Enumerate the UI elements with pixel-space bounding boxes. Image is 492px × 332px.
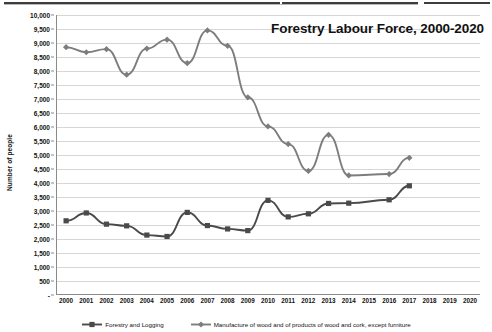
y-tick-label: 10,000 (30, 12, 50, 19)
data-point-square (407, 183, 412, 188)
y-tick-mark (51, 29, 54, 30)
data-point-square (225, 226, 230, 231)
data-point-diamond (325, 132, 331, 138)
cropped-toolbar-strip (0, 0, 492, 7)
x-tick-label: 2005 (160, 297, 174, 304)
y-tick-label: 4,500 (34, 166, 50, 173)
chart-container: Number of people -5001,0001,5002,0002,50… (0, 7, 492, 332)
series-line (66, 30, 409, 175)
data-point-square (185, 210, 190, 215)
y-axis-ticks: -5001,0001,5002,0002,5003,0003,5004,0004… (0, 15, 54, 295)
y-tick-label: 500 (39, 278, 50, 285)
x-tick-label: 2000 (59, 297, 73, 304)
y-tick-label: 1,000 (34, 264, 50, 271)
data-point-square (104, 222, 109, 227)
y-tick-label: 2,000 (34, 236, 50, 243)
data-point-diamond (265, 123, 271, 129)
data-point-diamond (386, 171, 392, 177)
x-axis-ticks: 2000200120022003200420052006200720082009… (56, 297, 480, 311)
data-point-square (265, 198, 270, 203)
data-point-square (84, 210, 89, 215)
chart-title: Forestry Labour Force, 2000-2020 (271, 21, 484, 36)
data-point-diamond (63, 44, 69, 50)
legend-label: Forestry and Logging (105, 321, 163, 328)
legend-square-marker-icon (81, 320, 103, 329)
toolbar-underline (4, 4, 418, 5)
y-tick-mark (51, 225, 54, 226)
plot-area (56, 15, 480, 295)
x-tick-label: 2016 (382, 297, 396, 304)
legend-item[interactable]: Forestry and Logging (81, 320, 163, 329)
x-tick-label: 2003 (120, 297, 134, 304)
data-point-square (164, 234, 169, 239)
data-point-diamond (164, 37, 170, 43)
chart-legend: Forestry and LoggingManufacture of wood … (0, 316, 492, 332)
y-tick-label: 6,500 (34, 110, 50, 117)
data-point-diamond (144, 46, 150, 52)
x-tick-label: 2017 (402, 297, 416, 304)
data-point-square (346, 201, 351, 206)
series-plot (56, 15, 480, 295)
y-tick-mark (51, 57, 54, 58)
data-point-diamond (83, 49, 89, 55)
y-tick-mark (51, 141, 54, 142)
y-tick-label: 6,000 (34, 124, 50, 131)
y-tick-mark (51, 197, 54, 198)
y-tick-mark (51, 295, 54, 296)
y-tick-mark (51, 127, 54, 128)
y-tick-label: 5,500 (34, 138, 50, 145)
y-tick-label: 4,000 (34, 180, 50, 187)
x-tick-label: 2007 (200, 297, 214, 304)
data-point-square (326, 201, 331, 206)
data-point-square (63, 218, 68, 223)
y-tick-label: 5,000 (34, 152, 50, 159)
x-tick-label: 2006 (180, 297, 194, 304)
data-point-diamond (124, 72, 130, 78)
y-tick-label: 8,000 (34, 68, 50, 75)
x-tick-label: 2014 (342, 297, 356, 304)
x-tick-label: 2012 (301, 297, 315, 304)
data-point-diamond (285, 141, 291, 147)
chart-screenshot: Number of people -5001,0001,5002,0002,50… (0, 0, 492, 332)
y-tick-mark (51, 239, 54, 240)
x-tick-label: 2004 (140, 297, 154, 304)
x-tick-label: 2011 (281, 297, 295, 304)
data-point-square (245, 228, 250, 233)
y-tick-mark (51, 281, 54, 282)
series-line (66, 186, 409, 237)
y-tick-label: 2,500 (34, 222, 50, 229)
x-tick-label: 2015 (362, 297, 376, 304)
y-tick-mark (51, 211, 54, 212)
y-tick-label: 3,000 (34, 208, 50, 215)
y-tick-mark (51, 43, 54, 44)
y-tick-label: 7,000 (34, 96, 50, 103)
y-tick-mark (51, 183, 54, 184)
data-point-diamond (184, 60, 190, 66)
data-point-square (124, 223, 129, 228)
legend-label: Manufacture of wood and of products of w… (214, 321, 411, 328)
data-point-diamond (346, 172, 352, 178)
x-tick-label: 2019 (443, 297, 457, 304)
legend-diamond-marker-icon (190, 320, 212, 329)
y-tick-label: - (48, 292, 50, 299)
y-tick-mark (51, 169, 54, 170)
y-tick-mark (51, 85, 54, 86)
toolbar-segment-right (424, 2, 490, 4)
y-tick-mark (51, 155, 54, 156)
data-point-square (205, 223, 210, 228)
y-tick-mark (51, 253, 54, 254)
x-tick-label: 2009 (241, 297, 255, 304)
data-point-square (306, 211, 311, 216)
data-point-diamond (204, 27, 210, 33)
data-point-square (387, 197, 392, 202)
y-tick-mark (51, 15, 54, 16)
y-tick-mark (51, 113, 54, 114)
x-tick-label: 2018 (423, 297, 437, 304)
data-point-diamond (305, 168, 311, 174)
x-tick-label: 2010 (261, 297, 275, 304)
x-tick-label: 2013 (322, 297, 336, 304)
data-point-square (144, 232, 149, 237)
y-tick-mark (51, 267, 54, 268)
legend-item[interactable]: Manufacture of wood and of products of w… (190, 320, 411, 329)
y-tick-label: 7,500 (34, 82, 50, 89)
